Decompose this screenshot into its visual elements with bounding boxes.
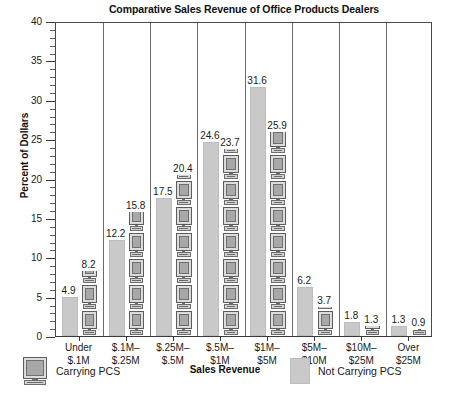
bar-carrying-pcs: [317, 307, 333, 336]
computer-monitor-icon: [223, 180, 239, 206]
monitor-screen-icon: [132, 262, 141, 274]
y-tick-major: [46, 180, 55, 181]
y-tick-major: [46, 140, 55, 141]
category-separator: [292, 23, 293, 336]
monitor-screen-icon: [273, 236, 282, 248]
computer-monitor-icon: [270, 284, 286, 310]
computer-monitor-icon: [223, 284, 239, 310]
computer-monitor-icon: [129, 212, 145, 232]
computer-monitor-icon: [129, 258, 145, 284]
monitor-screen-icon: [132, 314, 141, 326]
legend-carrying-pcs-icon: [22, 356, 48, 386]
keyboard-icon: [271, 174, 284, 179]
keyboard-icon: [271, 148, 284, 153]
y-tick-label: 35: [0, 55, 42, 66]
monitor-screen-icon: [132, 288, 141, 300]
monitor-bezel-icon: [23, 357, 48, 379]
bar-value-label: 4.9: [55, 285, 83, 296]
monitor-bezel-icon: [270, 311, 285, 329]
keyboard-icon: [224, 226, 237, 231]
monitor-bezel-icon: [129, 259, 144, 277]
monitor-bezel-icon: [318, 311, 333, 329]
computer-monitor-icon: [364, 326, 380, 336]
y-tick-major: [46, 61, 55, 62]
bar-value-label: 23.7: [216, 137, 244, 148]
y-tick-label: 25: [0, 134, 42, 145]
y-tick-major: [46, 298, 55, 299]
keyboard-icon: [24, 380, 46, 385]
monitor-bezel-icon: [129, 285, 144, 303]
computer-monitor-icon: [270, 310, 286, 336]
computer-monitor-icon: [270, 232, 286, 258]
keyboard-icon: [130, 330, 143, 335]
monitor-screen-icon: [226, 158, 235, 170]
computer-monitor-icon: [223, 232, 239, 258]
computer-monitor-icon: [176, 175, 192, 180]
monitor-screen-icon: [179, 262, 188, 274]
bar-value-label: 17.5: [149, 186, 177, 197]
monitor-screen-icon: [132, 236, 141, 248]
y-tick-label: 0: [0, 331, 42, 342]
keyboard-icon: [271, 330, 284, 335]
keyboard-icon: [271, 304, 284, 309]
legend-label-not-carrying-pcs: Not Carrying PCS: [318, 365, 401, 377]
monitor-screen-icon: [226, 288, 235, 300]
monitor-screen-icon: [179, 314, 188, 326]
monitor-screen-icon: [226, 262, 235, 274]
monitor-bezel-icon: [82, 285, 97, 303]
computer-monitor-icon: [176, 232, 192, 258]
computer-monitor-icon: [129, 310, 145, 336]
chart-root: Comparative Sales Revenue of Office Prod…: [0, 0, 450, 401]
category-separator: [245, 23, 246, 336]
monitor-bezel-icon: [270, 233, 285, 251]
keyboard-icon: [224, 330, 237, 335]
monitor-screen-icon: [226, 314, 235, 326]
keyboard-icon: [224, 278, 237, 283]
keyboard-icon: [224, 149, 237, 153]
keyboard-icon: [83, 330, 96, 335]
monitor-bezel-icon: [223, 181, 238, 199]
legend-label-carrying-pcs: Carrying PCS: [56, 365, 120, 377]
computer-monitor-icon: [270, 180, 286, 206]
y-tick-label: 40: [0, 16, 42, 27]
bar-carrying-pcs: [364, 326, 380, 336]
computer-monitor-icon: [82, 310, 98, 336]
computer-monitor-icon: [176, 180, 192, 206]
computer-monitor-icon: [411, 329, 427, 336]
bar-value-label: 3.7: [310, 295, 338, 306]
computer-monitor-icon: [176, 310, 192, 336]
bar-value-label: 25.9: [263, 120, 291, 131]
monitor-screen-icon: [321, 314, 330, 326]
keyboard-icon: [130, 278, 143, 283]
monitor-bezel-icon: [223, 285, 238, 303]
bar-carrying-pcs: [129, 212, 145, 336]
category-separator: [103, 23, 104, 336]
computer-monitor-icon: [82, 284, 98, 310]
monitor-bezel-icon: [270, 285, 285, 303]
plot-area: [55, 22, 432, 337]
keyboard-icon: [271, 226, 284, 231]
y-tick-major: [46, 101, 55, 102]
monitor-bezel-icon: [270, 132, 285, 147]
keyboard-icon: [224, 200, 237, 205]
bar-carrying-pcs: [223, 149, 239, 336]
category-separator: [197, 23, 198, 336]
keyboard-icon: [177, 304, 190, 309]
category-separator: [150, 23, 151, 336]
monitor-screen-icon: [26, 360, 45, 376]
x-tick: [361, 337, 362, 341]
y-tick-label: 15: [0, 213, 42, 224]
keyboard-icon: [177, 175, 190, 179]
keyboard-icon: [366, 330, 379, 335]
monitor-bezel-icon: [270, 181, 285, 199]
keyboard-icon: [130, 304, 143, 309]
computer-monitor-icon: [270, 258, 286, 284]
bar-not-carrying-pcs: [62, 297, 78, 336]
keyboard-icon: [177, 330, 190, 335]
keyboard-icon: [224, 304, 237, 309]
monitor-screen-icon: [85, 314, 94, 326]
x-tick: [408, 337, 409, 341]
monitor-bezel-icon: [176, 181, 191, 199]
computer-monitor-icon: [176, 284, 192, 310]
monitor-screen-icon: [179, 288, 188, 300]
